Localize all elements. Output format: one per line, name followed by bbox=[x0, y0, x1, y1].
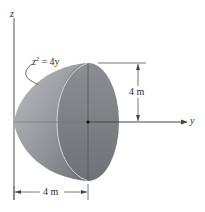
length-dimension-label: 4 m bbox=[43, 187, 58, 197]
dim-arrow-up-icon bbox=[136, 64, 140, 70]
equation-rhs: = 4y bbox=[39, 56, 60, 67]
equation-label: z2 = 4y bbox=[32, 56, 60, 67]
dim-arrow-right-icon bbox=[81, 190, 87, 194]
height-dimension-label: 4 m bbox=[129, 87, 144, 97]
z-axis-label: z bbox=[10, 9, 14, 19]
center-point bbox=[86, 120, 89, 123]
paraboloid-diagram bbox=[0, 0, 205, 212]
y-axis-arrow-icon bbox=[181, 120, 188, 125]
dim-arrow-down-icon bbox=[136, 115, 140, 121]
y-axis-label: y bbox=[190, 116, 194, 126]
dim-arrow-left-icon bbox=[15, 190, 21, 194]
